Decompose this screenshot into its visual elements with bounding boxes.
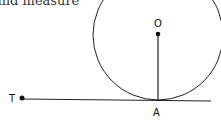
point-O-dot (156, 32, 161, 37)
circle (93, 0, 221, 100)
label-A: A (153, 107, 160, 118)
label-T: T (8, 93, 16, 104)
point-T-dot (20, 96, 25, 101)
tangent-diagram: O T A (0, 0, 221, 123)
label-O: O (154, 18, 162, 29)
tangent-line (22, 99, 211, 101)
